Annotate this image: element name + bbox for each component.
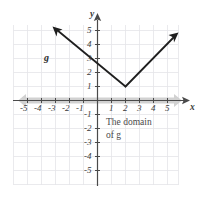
curve-label-g: g [44, 53, 49, 63]
x-tick-label-2: 2 [123, 104, 128, 113]
y-tick-label--5: -5 [84, 166, 92, 175]
coordinate-plane-svg [0, 0, 203, 197]
y-axis-label: y [90, 10, 94, 20]
y-tick-label-5: 5 [87, 26, 92, 35]
x-tick-label--5: -5 [20, 104, 28, 113]
x-tick-label--2: -2 [62, 104, 70, 113]
x-tick-label--3: -3 [48, 104, 56, 113]
x-tick-label-1: 1 [109, 104, 114, 113]
x-axis-label: x [190, 103, 195, 113]
graph-figure: -5 -4 -3 -2 -1 1 2 3 4 5 1 2 3 4 5 -1 -2… [0, 0, 203, 197]
x-tick-label-5: 5 [165, 104, 170, 113]
domain-annotation-line-1: The domain [106, 118, 152, 128]
y-tick-label-2: 2 [87, 68, 92, 77]
x-tick-label--4: -4 [34, 104, 42, 113]
x-tick-label-4: 4 [151, 104, 156, 113]
y-tick-label-1: 1 [87, 82, 92, 91]
curve-arrowheads [53, 27, 179, 43]
y-tick-label--1: -1 [84, 110, 92, 119]
x-tick-label--1: -1 [76, 104, 84, 113]
y-tick-label--3: -3 [84, 138, 92, 147]
y-tick-label--2: -2 [84, 124, 92, 133]
y-tick-label-3: 3 [87, 54, 92, 63]
y-tick-label--4: -4 [84, 152, 92, 161]
x-tick-label-3: 3 [137, 104, 142, 113]
domain-annotation-line-2: of g [106, 131, 121, 141]
y-tick-label-4: 4 [87, 40, 92, 49]
